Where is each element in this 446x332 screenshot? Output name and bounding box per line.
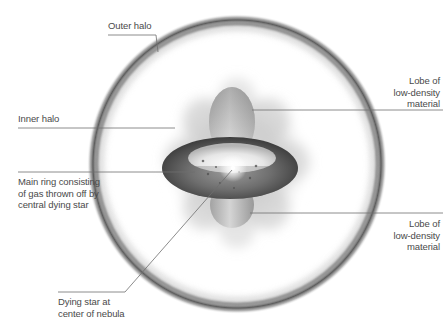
main-ring-label: Main ring consisting of gas thrown off b… — [18, 176, 100, 211]
upper-lobe-label: Lobe of low-density material — [394, 75, 440, 110]
nebula-diagram — [0, 0, 446, 332]
lower-lobe-label: Lobe of low-density material — [394, 218, 440, 253]
outer-halo-label: Outer halo — [108, 20, 151, 32]
dying-star-label: Dying star at center of nebula — [58, 296, 125, 319]
dying-star — [219, 154, 247, 182]
inner-halo-label: Inner halo — [18, 113, 59, 125]
